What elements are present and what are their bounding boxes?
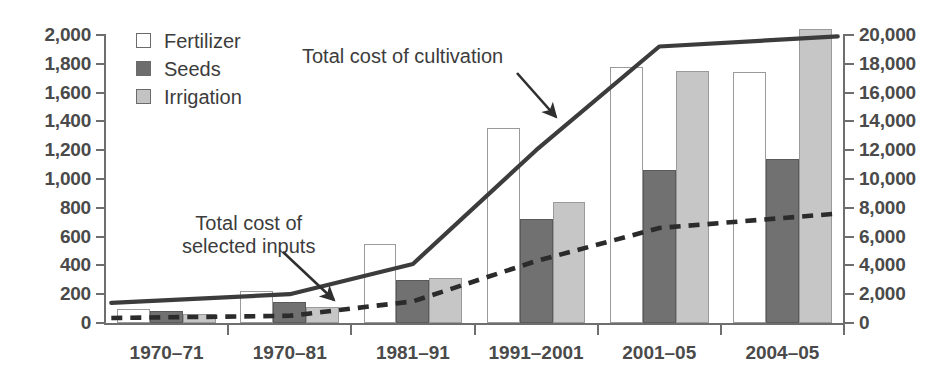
bar-seeds-4 — [520, 219, 553, 323]
legend: Fertilizer Seeds Irrigation — [136, 28, 242, 112]
legend-item-irrigation[interactable]: Irrigation — [136, 84, 242, 109]
y-axis-right-tick — [845, 293, 854, 295]
bar-irrigation-2 — [306, 307, 339, 323]
bar-fertilizer-4 — [487, 128, 520, 323]
bar-irrigation-4 — [553, 202, 586, 323]
chart-figure: Fertilizer Seeds Irrigation Total cost o… — [0, 0, 934, 384]
y-axis-right-tick — [845, 120, 854, 122]
y-axis-left-tick-label: 200 — [60, 284, 91, 303]
y-axis-right-tick — [845, 322, 854, 324]
bar-fertilizer-6 — [733, 72, 766, 323]
y-axis-right-tick-label: 18,000 — [859, 54, 916, 73]
y-axis-left-tick — [96, 63, 105, 65]
x-axis-tick — [227, 325, 229, 335]
x-axis-tick — [843, 325, 845, 335]
legend-swatch-fertilizer — [136, 33, 151, 48]
bar-seeds-5 — [643, 170, 676, 323]
y-axis-left-tick — [96, 34, 105, 36]
y-axis-left-tick — [96, 236, 105, 238]
bar-irrigation-3 — [429, 278, 462, 323]
annotation-total-cost-cultivation: Total cost of cultivation — [302, 45, 503, 68]
legend-label-seeds: Seeds — [164, 59, 221, 79]
bar-irrigation-6 — [799, 29, 832, 323]
bar-seeds-3 — [396, 280, 429, 323]
bar-fertilizer-2 — [240, 291, 273, 323]
annotation-arrow-cultivation — [517, 73, 556, 117]
legend-item-fertilizer[interactable]: Fertilizer — [136, 28, 242, 53]
annotation-arrow-inputs — [283, 252, 334, 300]
y-axis-left-tick-label: 1,800 — [44, 54, 91, 73]
y-axis-right-tick-label: 10,000 — [859, 169, 916, 188]
y-axis-left-tick-label: 0 — [81, 313, 91, 332]
y-axis-right-tick-label: 12,000 — [859, 140, 916, 159]
bar-seeds-6 — [766, 159, 799, 323]
y-axis-right-tick-label: 4,000 — [859, 255, 906, 274]
y-axis-left-tick-label: 400 — [60, 255, 91, 274]
y-axis-right-tick — [845, 207, 854, 209]
y-axis-left-tick-label: 800 — [60, 198, 91, 217]
bar-seeds-2 — [273, 302, 306, 323]
bar-irrigation-5 — [676, 71, 709, 323]
annotation-total-cost-selected-inputs: Total cost of selected inputs — [182, 212, 315, 258]
y-axis-left-tick — [96, 149, 105, 151]
y-axis-right-tick — [845, 178, 854, 180]
y-axis-right-tick — [845, 149, 854, 151]
y-axis-right-tick — [845, 236, 854, 238]
y-axis-right-tick — [845, 92, 854, 94]
bar-fertilizer-1 — [117, 309, 150, 323]
y-axis-left-tick — [96, 178, 105, 180]
y-axis-right-tick-label: 20,000 — [859, 25, 916, 44]
y-axis-right-tick-label: 16,000 — [859, 83, 916, 102]
x-axis-tick — [720, 325, 722, 335]
y-axis-right-tick-label: 6,000 — [859, 227, 906, 246]
y-axis-right-tick-label: 14,000 — [859, 111, 916, 130]
y-axis-left-tick-label: 1,000 — [44, 169, 91, 188]
y-axis-left-tick — [96, 264, 105, 266]
bar-irrigation-1 — [183, 314, 216, 323]
legend-label-irrigation: Irrigation — [164, 87, 242, 107]
y-axis-left-tick — [96, 120, 105, 122]
y-axis-right-tick — [845, 63, 854, 65]
bar-seeds-1 — [150, 311, 183, 323]
legend-swatch-seeds — [136, 61, 151, 76]
bar-fertilizer-5 — [610, 67, 643, 323]
y-axis-left-tick-label: 600 — [60, 227, 91, 246]
y-axis-right-tick-label: 8,000 — [859, 198, 906, 217]
x-axis-tick — [597, 325, 599, 335]
y-axis-right-tick — [845, 34, 854, 36]
y-axis-right-tick-label: 2,000 — [859, 284, 906, 303]
bar-fertilizer-3 — [364, 244, 397, 323]
y-axis-left-tick-label: 1,200 — [44, 140, 91, 159]
x-axis-tick — [350, 325, 352, 335]
legend-swatch-irrigation — [136, 89, 151, 104]
y-axis-left-tick — [96, 322, 105, 324]
x-axis-tick — [474, 325, 476, 335]
y-axis-left-tick-label: 1,600 — [44, 83, 91, 102]
y-axis-left-tick — [96, 207, 105, 209]
y-axis-right-tick — [845, 264, 854, 266]
y-axis-right-tick-label: 0 — [859, 313, 869, 332]
x-axis-tick-label: 2004–05 — [702, 343, 862, 362]
legend-label-fertilizer: Fertilizer — [164, 31, 241, 51]
y-axis-left-tick — [96, 92, 105, 94]
y-axis-left-tick-label: 2,000 — [44, 25, 91, 44]
legend-item-seeds[interactable]: Seeds — [136, 56, 242, 81]
y-axis-left-tick — [96, 293, 105, 295]
y-axis-left-tick-label: 1,400 — [44, 111, 91, 130]
